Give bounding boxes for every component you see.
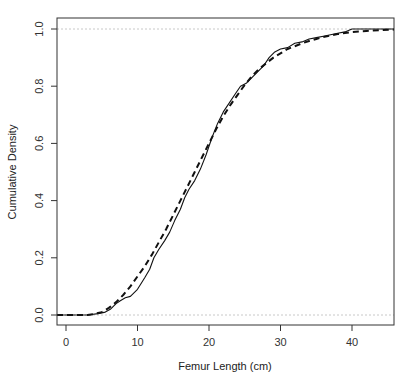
x-axis-title: Femur Length (cm) bbox=[178, 360, 272, 372]
y-axis-title: Cumulative Density bbox=[6, 124, 18, 219]
cdf-chart: 010203040 0.00.20.40.60.81.0 Femur Lengt… bbox=[0, 0, 407, 382]
y-tick-label: 0.8 bbox=[33, 79, 45, 94]
y-tick-label: 0.4 bbox=[33, 193, 45, 208]
y-tick-label: 0.2 bbox=[33, 250, 45, 265]
x-tick-label: 20 bbox=[203, 336, 215, 348]
x-tick-label: 30 bbox=[274, 336, 286, 348]
y-tick-label: 0.6 bbox=[33, 136, 45, 151]
y-tick-label: 0.0 bbox=[33, 307, 45, 322]
x-tick-label: 10 bbox=[131, 336, 143, 348]
y-tick-label: 1.0 bbox=[33, 21, 45, 36]
x-tick-label: 0 bbox=[63, 336, 69, 348]
x-tick-label: 40 bbox=[346, 336, 358, 348]
